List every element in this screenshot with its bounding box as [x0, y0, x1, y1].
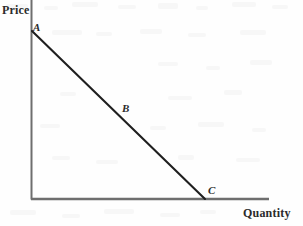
point-label-a: A	[33, 21, 40, 33]
y-axis-title: Price	[2, 3, 30, 18]
point-label-c: C	[208, 184, 215, 196]
plot-canvas	[0, 0, 303, 226]
point-label-b: B	[122, 102, 129, 114]
demand-curve-figure: Price Quantity A B C	[0, 0, 303, 226]
x-axis-title: Quantity	[243, 206, 291, 221]
demand-curve-line	[32, 31, 205, 199]
